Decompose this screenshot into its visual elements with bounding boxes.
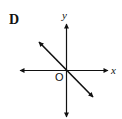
option-label: D: [9, 12, 19, 27]
coordinate-diagram: D x y O: [0, 0, 122, 119]
origin-label: O: [55, 71, 64, 83]
y-axis-label: y: [61, 9, 67, 21]
x-axis-label: x: [110, 64, 116, 76]
